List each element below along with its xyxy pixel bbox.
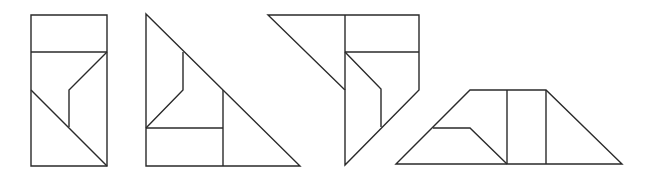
figure-trapezoid-tangram	[396, 90, 622, 164]
divider-line	[345, 52, 381, 127]
divider-line	[69, 52, 107, 127]
divider-line	[146, 52, 183, 128]
divider-line	[433, 128, 507, 164]
figure-pentagon-tangram	[268, 15, 419, 165]
figure-triangle-tangram	[146, 14, 300, 166]
figure-rectangle-tangram	[31, 15, 107, 166]
outline	[268, 15, 419, 165]
tangram-figures-canvas	[0, 0, 656, 176]
outline	[396, 90, 622, 164]
